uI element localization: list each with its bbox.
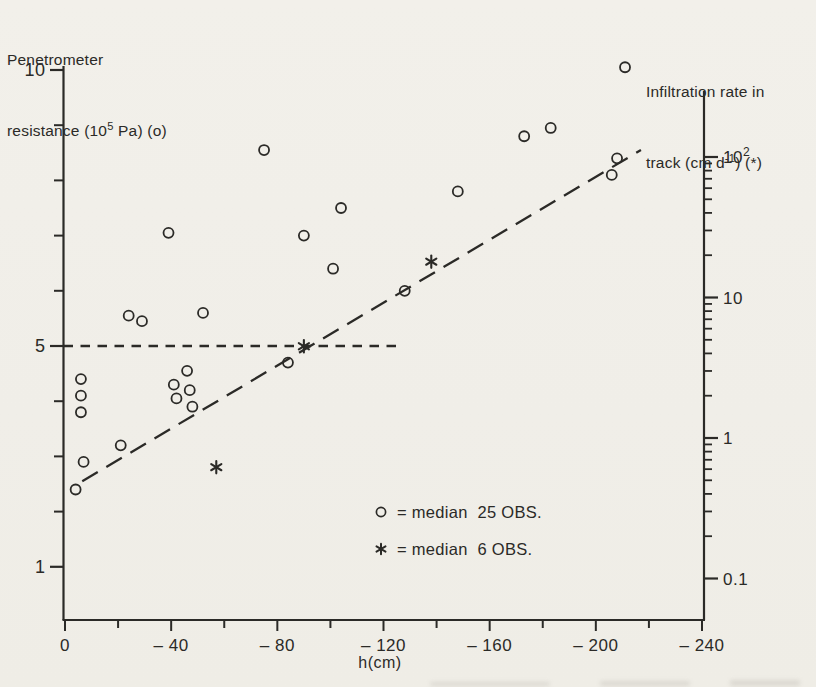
data-point-circle [71, 485, 81, 495]
circle-marker-icon [374, 505, 388, 519]
data-point-circle [607, 170, 617, 180]
data-point-circle [182, 366, 192, 376]
data-point-circle [546, 123, 556, 133]
data-point-star [211, 461, 221, 473]
x-axis-tick-label: – 240 [679, 636, 724, 655]
data-point-circle [336, 203, 346, 213]
scanned-scatter-figure: 10510– 40– 80– 120– 160– 200– 240h(cm)10… [0, 0, 816, 687]
data-point-circle [76, 374, 86, 384]
x-axis-title: h(cm) [358, 654, 401, 671]
left-axis-tick-label: 1 [35, 557, 46, 577]
data-point-circle [328, 264, 338, 274]
left-axis-title: Penetrometer resistance (105 Pa) (o) [7, 5, 167, 186]
right-axis-title: Infiltration rate in track (cm d-1) (*) [646, 37, 765, 218]
dashed-trend-line [82, 150, 641, 481]
scan-artifact [430, 682, 550, 686]
scan-artifact [600, 681, 690, 686]
data-point-circle [187, 402, 197, 412]
left-axis-title-line1: Penetrometer [7, 49, 167, 71]
legend-item-star-label: = median 6 OBS. [397, 540, 533, 559]
data-point-circle [76, 391, 86, 401]
legend-item-circle-label: = median 25 OBS. [397, 503, 542, 522]
data-point-circle [76, 407, 86, 417]
data-point-circle [259, 145, 269, 155]
x-axis-tick-label: – 40 [154, 636, 189, 655]
data-point-circle [519, 131, 529, 141]
data-point-circle [124, 311, 134, 321]
data-point-circle [164, 228, 174, 238]
data-point-circle [612, 153, 622, 163]
legend-item-circle: = median 25 OBS. [374, 501, 542, 523]
legend: = median 25 OBS. = median 6 OBS. [374, 501, 542, 575]
x-axis-tick-label: – 160 [467, 636, 512, 655]
scan-artifact [730, 680, 800, 686]
right-axis-tick-label: 1 [723, 429, 733, 448]
x-axis-tick-label: – 80 [260, 636, 295, 655]
data-point-circle [171, 393, 181, 403]
data-point-circle [116, 440, 126, 450]
left-axis-title-line2: resistance (105 Pa) (o) [7, 115, 167, 142]
right-axis-title-line1: Infiltration rate in [646, 81, 765, 103]
x-axis-tick-label: 0 [60, 636, 70, 655]
right-axis-tick-label: 0.1 [723, 570, 748, 589]
data-point-circle [79, 457, 89, 467]
right-axis-title-line2: track (cm d-1) (*) [646, 147, 765, 174]
data-point-circle [453, 186, 463, 196]
data-point-circle [299, 231, 309, 241]
data-point-circle [137, 316, 147, 326]
star-marker-icon [374, 542, 388, 556]
data-point-circle [198, 308, 208, 318]
left-axis-tick-label: 5 [35, 336, 46, 356]
x-axis-tick-label: – 120 [361, 636, 406, 655]
right-axis-tick-label: 10 [723, 289, 743, 308]
data-point-circle [169, 380, 179, 390]
data-point-circle [620, 62, 630, 72]
data-point-star [426, 255, 436, 267]
data-point-circle [185, 385, 195, 395]
legend-item-star: = median 6 OBS. [374, 538, 542, 560]
x-axis-tick-label: – 200 [573, 636, 618, 655]
